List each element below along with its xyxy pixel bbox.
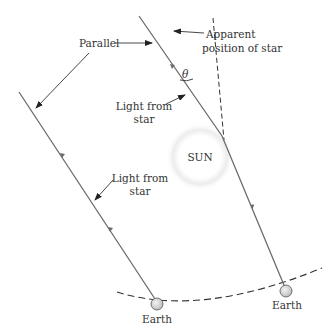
parallel-leader-left: [36, 53, 89, 108]
parallel-label: Parallel: [79, 37, 120, 49]
apparent-position-label-line1: Apparent: [205, 28, 256, 40]
earth-left-label: Earth: [142, 313, 172, 325]
earth-right-icon: [280, 285, 292, 297]
light-from-star-upper-line1: Light from: [116, 100, 173, 112]
light-lower-leader: [95, 180, 113, 200]
apparent-position-label-line2: position of star: [202, 42, 283, 54]
light-from-star-lower-line1: Light from: [112, 172, 169, 184]
light-from-star-upper-line2: star: [134, 113, 156, 125]
earth-orbit-dashed: [117, 268, 322, 301]
light-from-star-lower-line2: star: [130, 185, 152, 197]
theta-label: θ: [182, 68, 189, 80]
earth-left-icon: [151, 298, 163, 310]
sun-label: SUN: [187, 151, 212, 163]
apparent-position-leader: [174, 31, 204, 33]
light-deflection-diagram: SUN Earth Earth Parallel Apparent positi…: [0, 0, 336, 331]
earth-right-label: Earth: [272, 299, 302, 311]
